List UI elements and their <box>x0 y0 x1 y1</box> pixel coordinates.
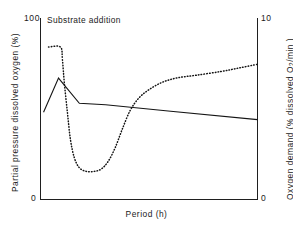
series-oxygen-demand <box>49 46 258 172</box>
plot-canvas <box>0 0 293 231</box>
y-axis-right-label-subscript: 2 <box>288 62 293 66</box>
y-axis-left-label: Partial pressure dissolved oxygen (%) <box>10 33 20 192</box>
substrate-addition-annotation: Substrate addition <box>47 15 121 25</box>
y-axis-left-tick-bottom: 0 <box>31 193 36 203</box>
x-axis-label: Period (h) <box>0 209 293 219</box>
y-axis-left-tick-top: 100 <box>24 13 40 23</box>
series-dissolved-oxygen <box>44 78 258 120</box>
y-axis-right-label-tail: /min ) <box>285 38 293 62</box>
chart-figure: 100 0 10 0 Substrate addition Period (h)… <box>0 0 293 231</box>
y-axis-right-label: Oxygen demand (% dissolved O2/min ) <box>285 38 293 200</box>
y-axis-right-tick-top: 10 <box>261 13 272 23</box>
y-axis-right-tick-bottom: 0 <box>261 193 266 203</box>
y-axis-right-label-main: Oxygen demand (% dissolved O <box>285 66 293 200</box>
